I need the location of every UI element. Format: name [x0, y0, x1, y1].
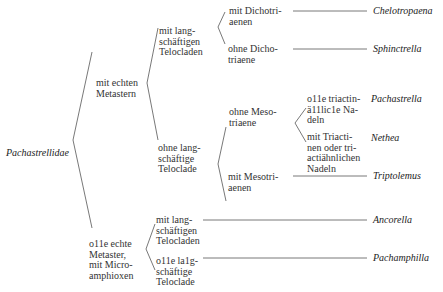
node-mit-mesotriaenen: mit Mesotri- aenen — [228, 172, 278, 193]
node-mit-triactinen: mit Triacti- nen oder tri- actiähnlichen… — [307, 132, 360, 174]
taxon-triptolemus: Triptolemus — [373, 170, 421, 181]
root-brace — [73, 52, 92, 228]
brace-ohne-langschaeftige — [218, 127, 226, 201]
root-family-label: Pachastrellidae — [6, 147, 69, 158]
taxon-pachastrella: Pachastrella — [371, 93, 422, 104]
taxon-ancorella: Ancorella — [373, 214, 412, 225]
brace-mit-echten-metastern — [147, 28, 158, 140]
taxon-pachamphilla: Pachamphilla — [373, 252, 429, 263]
node-mit-dichotriaenen: mit Dichotri- aenen — [229, 6, 282, 27]
brace-ohne-echte-metaster — [146, 224, 155, 270]
node-ohne-dichotriaene: ohne Dicho- triaene — [228, 44, 278, 65]
node-ohne-triactinaehnliche-nadeln: o11e triactin- ä11lic1e Na- deln — [307, 94, 360, 126]
brace-mit-langschaeftigen — [218, 12, 225, 44]
node-ohne-mesotriaene: ohne Meso- triaene — [229, 107, 277, 128]
taxon-chelotropaena: Chelotropaena — [373, 5, 433, 16]
taxon-nethea: Nethea — [371, 132, 399, 143]
brace-ohne-mesotriaene — [295, 108, 306, 142]
node-mit-langschaeftigen-telocladen: mit lang- schäftigen Telocladen — [159, 26, 203, 58]
node-mit-langschaeftigen-telocladen-2: mit lang- schäftigen Telocladen — [156, 215, 200, 247]
node-ohne-langschaeftige-teloclade-2: o11e la1g- schäftige Teloclade — [156, 256, 198, 288]
node-ohne-langschaeftige-teloclade: ohne lang- schäftige Teloclade — [158, 143, 201, 175]
node-ohne-echte-metaster: o11e echte Metaster, mit Micro- amphioxe… — [89, 239, 133, 281]
taxon-sphinctrella: Sphinctrella — [373, 43, 422, 54]
node-mit-echten-metastern: mit echten Metastern — [96, 78, 138, 99]
